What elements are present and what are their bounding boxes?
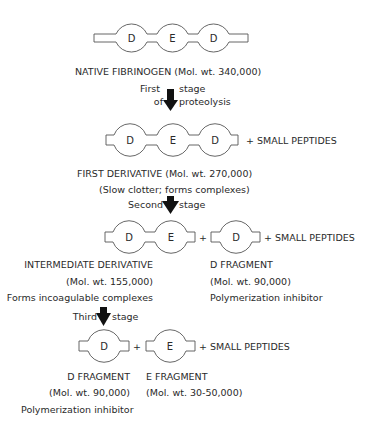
d-fragment-note: Polymerization inhibitor [21,404,134,415]
d-fragment-molecule: D [211,221,260,254]
arrow1-label-first: First [140,83,160,94]
arrow3-label-third: Third [72,311,97,322]
first-derivative-label: FIRST DERIVATIVE (Mol. wt. 270,000) [77,168,252,179]
arrow2-label-second: Second [128,199,163,210]
plus-sign: + [199,232,207,243]
third-stage-arrow [96,307,111,326]
small-peptides-label: + SMALL PEPTIDES [199,341,290,352]
arrow1-label-stage: stage [179,83,206,94]
domain-e: E [167,341,173,352]
d-fragment-label: D FRAGMENT [67,371,130,382]
domain-d-right: D [210,33,218,44]
small-peptides-label: + SMALL PEPTIDES [246,135,337,146]
arrow3-label-stage: stage [112,311,139,322]
native-fibrinogen-label: NATIVE FIBRINOGEN (Mol. wt. 340,000) [75,66,261,77]
arrow1-label-of: of [154,96,164,107]
d-fragment-mw: (Mol. wt. 90,000) [210,276,291,287]
native-fibrinogen-molecule: D E D [94,24,248,52]
domain-e: E [170,135,176,146]
e-fragment-label: E FRAGMENT [146,371,208,382]
plus-sign: + [133,341,141,352]
domain-d-left: D [128,33,136,44]
intermediate-derivative-molecule: D E [105,221,195,254]
domain-d-right: D [211,135,219,146]
domain-d: D [125,232,133,243]
fibrinogen-proteolysis-diagram: D E D NATIVE FIBRINOGEN (Mol. wt. 340,00… [0,0,373,423]
arrow1-label-proteolysis: proteolysis [179,96,231,107]
domain-d-left: D [126,135,134,146]
intermediate-derivative-mw: (Mol. wt. 155,000) [66,276,153,287]
e-fragment-mw: (Mol. wt. 30-50,000) [146,387,242,398]
domain-e: E [169,33,175,44]
intermediate-derivative-note: Forms incoagulable complexes [7,292,153,303]
first-stage-arrow [163,89,178,111]
second-stage-arrow [162,196,179,214]
domain-e: E [168,232,174,243]
d-fragment-mw: (Mol. wt. 90,000) [49,387,130,398]
arrow2-label-stage: stage [179,199,206,210]
d-fragment-molecule-final: D [79,330,129,363]
small-peptides-label: + SMALL PEPTIDES [264,232,355,243]
d-fragment-label: D FRAGMENT [210,259,273,270]
first-derivative-note: (Slow clotter; forms complexes) [99,184,250,195]
first-derivative-molecule: D E D [106,124,238,157]
domain-d: D [100,341,108,352]
domain-d: D [232,232,240,243]
d-fragment-note: Polymerization inhibitor [210,292,323,303]
intermediate-derivative-label: INTERMEDIATE DERIVATIVE [24,259,153,270]
e-fragment-molecule: E [146,330,195,363]
